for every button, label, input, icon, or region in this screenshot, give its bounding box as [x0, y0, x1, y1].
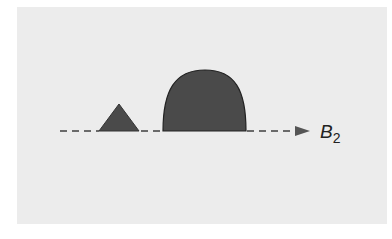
diagram-canvas: B2	[0, 0, 392, 239]
dome-shape	[163, 70, 246, 131]
axis-label: B2	[320, 121, 341, 146]
arrowhead-icon	[295, 126, 310, 136]
triangle-shape	[99, 104, 139, 131]
